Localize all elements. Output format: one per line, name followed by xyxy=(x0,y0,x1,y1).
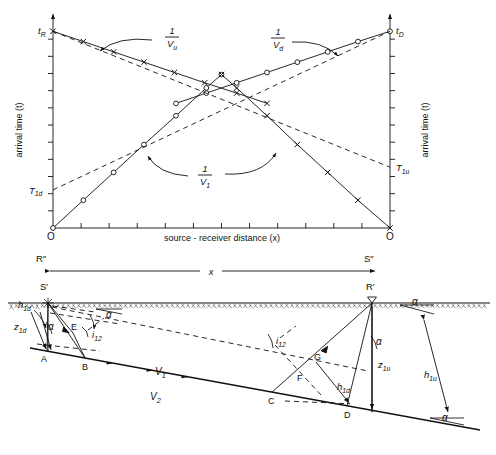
marker-circle xyxy=(356,39,361,44)
marker-x xyxy=(264,101,269,106)
svg-text:Vd: Vd xyxy=(273,39,283,52)
marker-circle xyxy=(234,80,239,85)
svg-text:arrival time (t): arrival time (t) xyxy=(14,102,24,157)
z1d-measure xyxy=(31,312,46,349)
seismic-refraction-figure: tRtDT1dT1uOOsource - receiver distance (… xyxy=(0,0,496,455)
ray-C-to-receiver xyxy=(272,303,372,392)
marker-circle xyxy=(111,170,116,175)
svg-text:h1d: h1d xyxy=(337,381,350,394)
marker-x xyxy=(325,170,330,175)
svg-text:h1u: h1u xyxy=(424,369,437,382)
marker-x xyxy=(264,113,269,118)
traveltime-plot xyxy=(48,14,395,228)
h1u-measure xyxy=(424,320,448,412)
svg-text:D: D xyxy=(344,410,351,420)
traveltime-curves xyxy=(50,29,392,231)
svg-text:R″: R″ xyxy=(36,253,47,264)
marker-x xyxy=(81,39,86,44)
arrow-to-V1-left xyxy=(148,156,188,176)
ray-path-diagram xyxy=(8,264,490,430)
marker-circle xyxy=(325,49,330,54)
axis-ticks xyxy=(48,39,395,228)
svg-text:tD: tD xyxy=(396,25,404,38)
i12-leader-left xyxy=(90,315,94,329)
ray-arrow-down xyxy=(63,327,70,333)
traveltime-labels: tRtDT1dT1uOOsource - receiver distance (… xyxy=(14,25,430,243)
series-refracted-downdip-from-R xyxy=(53,31,267,103)
arrow-to-Vu xyxy=(100,39,152,51)
svg-text:V1: V1 xyxy=(200,176,210,189)
svg-text:S″: S″ xyxy=(364,253,374,264)
marker-circle xyxy=(174,101,179,106)
svg-text:1: 1 xyxy=(169,26,174,36)
svg-text:F: F xyxy=(297,373,303,383)
svg-text:O: O xyxy=(47,231,55,242)
marker-circle xyxy=(388,29,393,34)
svg-text:B: B xyxy=(82,362,88,372)
geophone-icon xyxy=(368,297,377,303)
svg-text:α: α xyxy=(442,412,448,423)
svg-text:Vu: Vu xyxy=(167,38,177,51)
marker-circle xyxy=(174,113,179,118)
marker-circle xyxy=(51,226,56,231)
marker-x xyxy=(141,59,146,64)
marker-x xyxy=(172,70,177,75)
svg-text:α: α xyxy=(106,309,112,320)
marker-x xyxy=(295,142,300,147)
svg-text:source - receiver distance (x): source - receiver distance (x) xyxy=(164,233,280,243)
arrow-to-V1-right xyxy=(225,153,276,174)
dashed-normal-C xyxy=(280,326,296,338)
marker-x xyxy=(234,90,239,95)
ray-D-to-receiver xyxy=(347,303,372,406)
svg-text:1: 1 xyxy=(275,27,280,37)
series-direct-wave-from-left-origin xyxy=(53,75,222,228)
series-direct-wave-from-right-origin xyxy=(222,75,391,228)
svg-text:E: E xyxy=(71,322,77,332)
svg-text:A: A xyxy=(41,354,47,364)
series-dashed-extension-updip xyxy=(53,31,390,190)
svg-text:α: α xyxy=(412,296,418,307)
svg-text:R′: R′ xyxy=(366,281,375,292)
dashed-horizontal-A xyxy=(37,344,100,351)
svg-text:tR: tR xyxy=(38,25,46,38)
svg-text:z1d: z1d xyxy=(13,321,27,334)
i12-arc-right xyxy=(268,334,273,348)
i12-arc-left xyxy=(82,327,88,337)
svg-text:C: C xyxy=(268,396,275,406)
marker-circle xyxy=(81,198,86,203)
svg-text:S′: S′ xyxy=(40,281,48,292)
marker-x xyxy=(111,49,116,54)
svg-text:V1: V1 xyxy=(155,366,166,380)
ray-diagram-labels: xR″S″S′R′ABCDEFGV1V2αααααi12i12h1dz1dz1u… xyxy=(13,253,448,423)
series-dashed-extension-downdip xyxy=(53,31,390,167)
marker-circle xyxy=(204,86,209,91)
svg-text:T1d: T1d xyxy=(29,185,43,198)
svg-text:i12: i12 xyxy=(92,329,102,342)
svg-text:z1u: z1u xyxy=(377,359,391,372)
marker-x xyxy=(234,85,239,90)
svg-text:α: α xyxy=(48,321,54,332)
svg-text:T1u: T1u xyxy=(396,162,410,175)
svg-text:O: O xyxy=(386,231,394,242)
dashed-F-to-D xyxy=(285,401,350,404)
marker-x xyxy=(355,197,360,202)
svg-text:arrival time (t): arrival time (t) xyxy=(420,102,430,157)
arrow-to-Vd xyxy=(292,42,338,56)
marker-circle xyxy=(295,60,300,65)
marker-x xyxy=(202,80,207,85)
svg-text:h1d: h1d xyxy=(18,299,31,312)
refractor-interface xyxy=(30,348,480,430)
svg-text:α: α xyxy=(376,336,382,347)
svg-text:G: G xyxy=(314,352,321,362)
svg-text:1: 1 xyxy=(202,164,207,174)
h1d-measure-right xyxy=(316,362,349,403)
svg-text:V2: V2 xyxy=(150,391,161,405)
marker-circle xyxy=(265,70,270,75)
